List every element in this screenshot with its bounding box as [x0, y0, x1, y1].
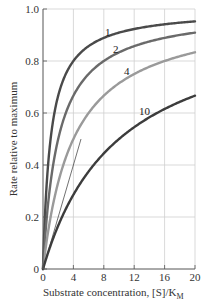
curves: [43, 21, 195, 269]
y-axis-title: Rate relative to maximum: [7, 81, 19, 196]
x-tick-label: 16: [159, 271, 171, 283]
x-tick-label: 8: [101, 271, 107, 283]
x-axis-title-main: Substrate concentration, [S]/K: [43, 286, 177, 298]
y-tick-label: 0.4: [25, 159, 39, 171]
y-tick-label: 0.8: [25, 55, 39, 67]
curve-label-2: 2: [113, 43, 119, 55]
curve-4: [43, 52, 195, 269]
curve-10: [43, 96, 195, 269]
y-tick-label: 1.0: [25, 3, 39, 15]
y-tick-label: 0.6: [25, 107, 39, 119]
curve-label-10: 10: [139, 105, 151, 117]
curve-label-1: 1: [105, 26, 111, 38]
curve-label-4: 4: [124, 65, 130, 77]
curve-2: [43, 33, 195, 269]
x-axis-title-subscript: M: [177, 292, 184, 301]
x-tick-label: 20: [190, 271, 202, 283]
x-tick-label: 0: [40, 271, 46, 283]
x-axis-title: Substrate concentration, [S]/KM: [43, 286, 184, 301]
inhibition-rate-chart: 04812162000.20.40.60.81.0 1 2 4 10 Rate …: [0, 0, 206, 306]
y-tick-label: 0.2: [25, 211, 39, 223]
y-tick-label: 0: [34, 263, 40, 275]
x-tick-label: 4: [71, 271, 77, 283]
x-tick-label: 12: [129, 271, 140, 283]
